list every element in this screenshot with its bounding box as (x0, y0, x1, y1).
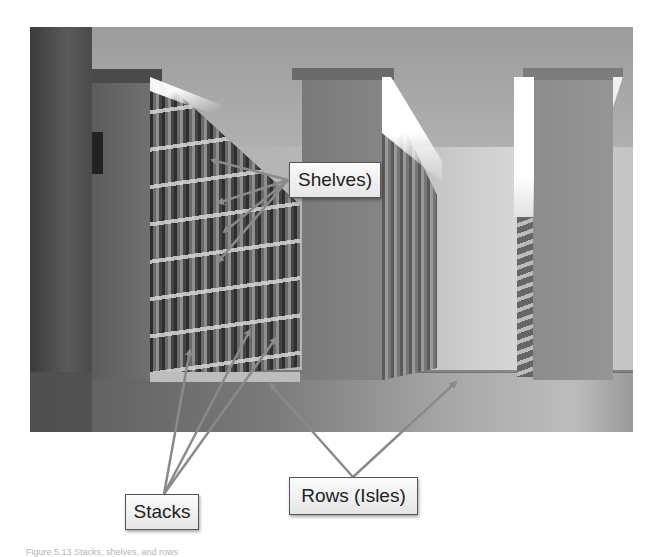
shelves-label-text: Shelves) (298, 169, 372, 191)
shelves-label: Shelves) (289, 162, 381, 198)
annotation-arrows (0, 0, 662, 557)
rows-arrows (270, 382, 456, 477)
stacks-label: Stacks (125, 494, 199, 530)
rows-label: Rows (Isles) (289, 477, 418, 515)
stacks-label-text: Stacks (133, 501, 190, 523)
figure-caption: Figure 5.13 Stacks, shelves, and rows (26, 547, 178, 557)
rows-label-text: Rows (Isles) (301, 485, 406, 507)
shelves-arrows (212, 160, 288, 262)
stacks-arrows (164, 330, 276, 494)
